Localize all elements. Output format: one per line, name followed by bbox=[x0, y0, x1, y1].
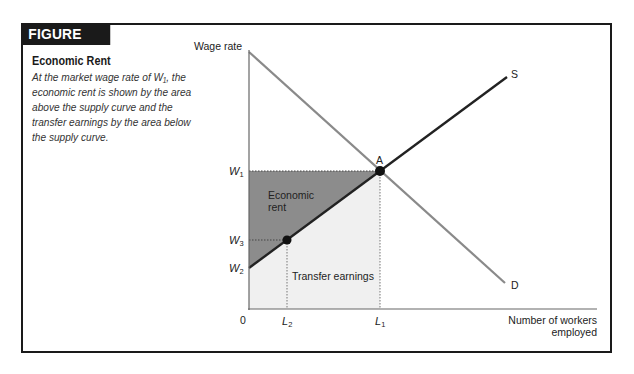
l2-tick-label: L2 bbox=[282, 315, 292, 329]
w3-tick-label: W3 bbox=[229, 234, 244, 248]
supply-label: S bbox=[511, 68, 518, 80]
transfer-earnings-label: Transfer earnings bbox=[292, 270, 374, 282]
demand-label: D bbox=[511, 279, 519, 291]
economic-rent-chart: Wage rate Number of workers employed 0 S… bbox=[0, 0, 634, 374]
origin-label: 0 bbox=[240, 314, 246, 326]
economic-rent-label-line2: rent bbox=[268, 201, 286, 213]
x-axis-label-line1: Number of workers bbox=[508, 314, 597, 326]
w1-tick-label: W1 bbox=[229, 165, 244, 179]
y-axis-label: Wage rate bbox=[194, 40, 242, 52]
equilibrium-point-a bbox=[375, 166, 385, 176]
economic-rent-label-line1: Economic bbox=[268, 189, 314, 201]
w2-tick-label: W2 bbox=[229, 262, 244, 276]
point-a-label: A bbox=[376, 154, 383, 166]
point-w3-l2 bbox=[283, 236, 292, 245]
x-axis-label-line2: employed bbox=[551, 326, 597, 338]
l1-tick-label: L1 bbox=[375, 315, 385, 329]
